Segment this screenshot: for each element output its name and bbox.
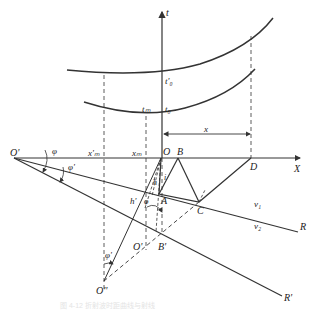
- velocity-v2: v₂: [254, 221, 261, 231]
- point-R-prime: R': [283, 292, 293, 303]
- point-O-double-prime: O'': [96, 285, 108, 296]
- point-R: R: [299, 221, 306, 232]
- ray-B-C: [178, 158, 199, 202]
- xm-prime-label: x'ₘ: [87, 148, 100, 158]
- point-A: A: [160, 195, 168, 206]
- figure-caption: 图 4-12 折射波时距曲线与射线: [60, 301, 155, 310]
- velocity-v1: v₁: [254, 199, 261, 209]
- x-label: x: [203, 124, 208, 134]
- h-label: h: [153, 178, 157, 187]
- t0-label: t₀: [165, 104, 171, 114]
- phi-prime-label-bottom: φ': [105, 250, 113, 260]
- upper-traveltime-curve: [67, 18, 273, 73]
- time-axis-label: t: [166, 7, 169, 18]
- phi-arc-at-A: [147, 205, 162, 212]
- line-O-double-prime-C: [104, 202, 199, 281]
- i-label: i: [164, 173, 166, 182]
- point-D: D: [249, 161, 258, 172]
- point-O-mid: O': [133, 241, 143, 252]
- t0-prime-label: t'₀: [165, 76, 173, 86]
- distance-axis-label: X: [293, 163, 301, 174]
- point-B-prime: B': [158, 241, 167, 252]
- refractor-line-R-prime: [14, 158, 282, 296]
- phi-prime-arc: [60, 167, 64, 182]
- phi-arc: [43, 150, 47, 172]
- point-O: O: [163, 146, 170, 157]
- point-O-prime: O': [10, 147, 20, 158]
- point-C: C: [197, 205, 204, 216]
- tm-label: tₘ: [142, 104, 151, 114]
- ray-path: [159, 158, 251, 202]
- phi-prime-label: φ': [68, 162, 76, 172]
- line-O-O-double-prime: [104, 158, 161, 281]
- xm-label: xₘ: [131, 148, 142, 158]
- phi-label: φ: [52, 146, 57, 156]
- h-prime-label: h': [130, 196, 138, 206]
- phi-label-at-A: φ: [144, 197, 149, 206]
- phi-prime-arc-bottom: [104, 263, 113, 264]
- point-B: B: [177, 146, 183, 157]
- refraction-diagram: t X t'₀ tₘ t₀ O' x'ₘ xₘ O B D x φ φ' h i…: [0, 0, 317, 311]
